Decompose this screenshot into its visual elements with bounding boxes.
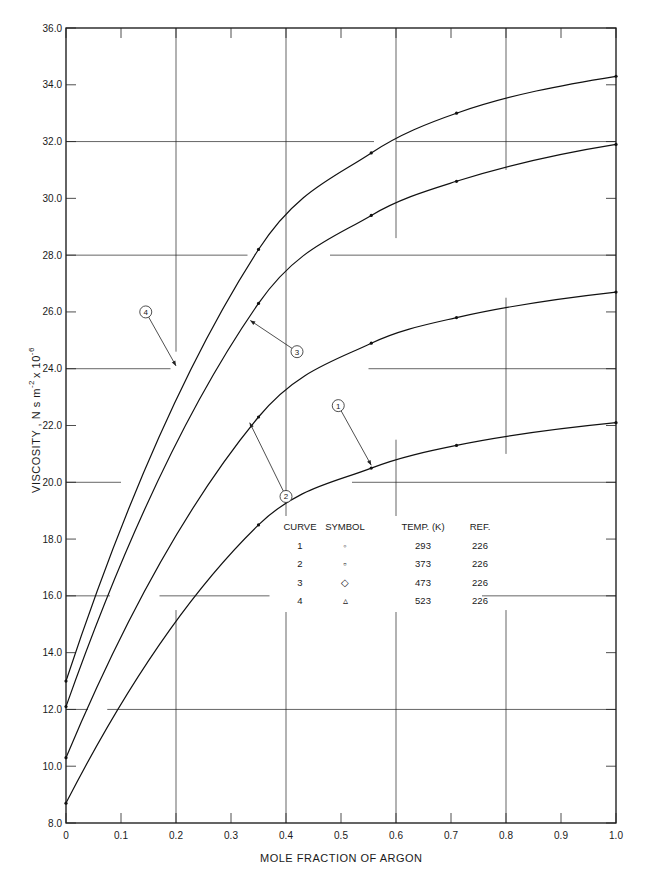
x-tick-label: 1.0 — [609, 830, 623, 841]
legend-cell: 1 — [297, 540, 302, 551]
y-tick-label: 20.0 — [43, 477, 63, 488]
y-tick-label: 8.0 — [48, 818, 62, 829]
data-point — [370, 151, 373, 154]
data-point — [455, 180, 458, 183]
data-point — [64, 756, 67, 759]
legend-cell: 473 — [415, 577, 431, 588]
legend-cell: 2 — [297, 558, 302, 569]
y-tick-label: 24.0 — [43, 363, 63, 374]
x-axis-title: MOLE FRACTION OF ARGON — [260, 852, 423, 864]
data-point — [455, 112, 458, 115]
x-tick-label: 0.7 — [444, 830, 458, 841]
legend-cell: 226 — [472, 595, 488, 606]
curve-line-1 — [66, 423, 616, 803]
y-axis-title-mid: x 10 — [30, 355, 42, 378]
y-tick-label: 34.0 — [43, 79, 63, 90]
legend-cell: 226 — [472, 540, 488, 551]
legend-cell: 3 — [297, 577, 302, 588]
legend-cell: 4 — [297, 595, 302, 606]
callout-4: 4 — [140, 306, 176, 366]
legend-table: CURVESYMBOLTEMP. (K)REF.1◦2932262▫373226… — [282, 516, 490, 612]
arrowhead-icon — [367, 460, 371, 465]
data-point — [455, 316, 458, 319]
svg-text:VISCOSITY , N s m-2x 10-6: VISCOSITY , N s m-2x 10-6 — [27, 347, 42, 493]
y-axis-ticks: 8.010.012.014.016.018.020.022.024.026.02… — [43, 23, 616, 829]
arrowhead-icon — [250, 320, 255, 324]
legend-header: TEMP. (K) — [401, 521, 444, 532]
x-tick-label: 0.3 — [224, 830, 238, 841]
callout-label: 2 — [284, 492, 289, 501]
legend-cell: 226 — [472, 558, 488, 569]
curve-3 — [64, 143, 617, 708]
curve-line-3 — [66, 144, 616, 706]
y-tick-label: 30.0 — [43, 193, 63, 204]
data-point — [455, 444, 458, 447]
x-tick-label: 0.9 — [554, 830, 568, 841]
y-tick-label: 16.0 — [43, 590, 63, 601]
callout-3: 3 — [250, 320, 303, 357]
data-point — [370, 214, 373, 217]
data-curves — [64, 75, 617, 805]
y-axis-title-exp1: -2 — [27, 380, 36, 388]
grid-lines — [66, 28, 616, 823]
arrowhead-icon — [172, 361, 176, 366]
y-tick-label: 32.0 — [43, 136, 63, 147]
legend-header: CURVE — [283, 521, 316, 532]
legend-cell: ◇ — [341, 577, 349, 588]
data-point — [257, 302, 260, 305]
y-tick-label: 10.0 — [43, 761, 63, 772]
y-tick-label: 18.0 — [43, 534, 63, 545]
curve-1 — [64, 421, 617, 805]
legend-cell: ◦ — [343, 540, 346, 551]
data-point — [614, 75, 617, 78]
callout-label: 3 — [295, 348, 300, 357]
y-axis-title: VISCOSITY , N s m-2x 10-6 — [27, 347, 42, 493]
legend-cell: 373 — [415, 558, 431, 569]
data-point — [257, 248, 260, 251]
x-tick-label: 0.4 — [279, 830, 293, 841]
callout-1: 1 — [332, 400, 371, 466]
y-tick-label: 26.0 — [43, 306, 63, 317]
data-point — [257, 415, 260, 418]
legend-cell: ▵ — [343, 595, 348, 606]
plot-frame — [66, 28, 616, 823]
x-tick-label: 0.6 — [389, 830, 403, 841]
data-point — [370, 342, 373, 345]
data-point — [370, 466, 373, 469]
x-tick-label: 0.5 — [334, 830, 348, 841]
y-axis-title-main: VISCOSITY , N s m — [30, 388, 42, 493]
x-tick-label: 0 — [63, 830, 69, 841]
data-point — [64, 705, 67, 708]
data-point — [614, 143, 617, 146]
callout-arrow — [341, 411, 371, 465]
callout-arrow — [149, 317, 176, 366]
callout-arrow — [250, 423, 284, 491]
data-point — [257, 523, 260, 526]
legend-cell: 226 — [472, 577, 488, 588]
legend-cell: 523 — [415, 595, 431, 606]
data-point — [614, 421, 617, 424]
callout-label: 4 — [144, 308, 149, 317]
x-tick-label: 0.8 — [499, 830, 513, 841]
callout-label: 1 — [336, 402, 341, 411]
data-point — [614, 290, 617, 293]
viscosity-chart: 8.010.012.014.016.018.020.022.024.026.02… — [0, 0, 647, 881]
x-axis-ticks: 00.10.20.30.40.50.60.70.80.91.0 — [63, 28, 623, 841]
y-tick-label: 28.0 — [43, 250, 63, 261]
legend-cell: 293 — [415, 540, 431, 551]
y-tick-label: 14.0 — [43, 647, 63, 658]
legend-cell: ▫ — [343, 558, 346, 569]
y-tick-label: 22.0 — [43, 420, 63, 431]
data-point — [64, 802, 67, 805]
data-point — [64, 679, 67, 682]
y-tick-label: 12.0 — [43, 704, 63, 715]
x-tick-label: 0.2 — [169, 830, 183, 841]
legend-header: SYMBOL — [325, 521, 365, 532]
x-tick-label: 0.1 — [114, 830, 128, 841]
y-axis-title-exp2: -6 — [27, 347, 36, 355]
legend-header: REF. — [470, 521, 491, 532]
y-tick-label: 36.0 — [43, 23, 63, 34]
axes — [66, 28, 616, 823]
